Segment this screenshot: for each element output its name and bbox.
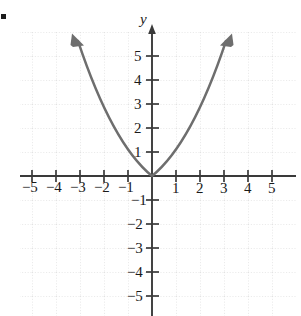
x-tick-label-3: 3	[220, 181, 227, 196]
x-tick-label-1: 1	[172, 181, 179, 196]
y-tick-label--4: −4	[127, 265, 142, 280]
x-tick-label--5: −5	[22, 180, 37, 195]
x-tick-label--2: −2	[94, 180, 109, 195]
y-tick-label-4: 4	[134, 73, 141, 88]
x-tick-label-5: 5	[268, 181, 275, 196]
x-tick-label--4: −4	[46, 180, 61, 195]
grid-lines	[20, 32, 296, 316]
y-tick-label-1: 1	[134, 145, 141, 160]
y-tick-label--2: −2	[127, 217, 142, 232]
y-tick-label--1: −1	[131, 193, 146, 208]
x-tick-label-4: 4	[244, 181, 251, 196]
x-tick-label--3: −3	[70, 180, 85, 195]
y-tick-label--3: −3	[127, 241, 142, 256]
y-tick-label-5: 5	[134, 49, 141, 64]
y-tick-label-2: 2	[134, 121, 141, 136]
coordinate-plane	[0, 0, 301, 316]
y-axis-arrow-icon	[148, 24, 156, 34]
y-tick-label--5: −5	[127, 289, 142, 304]
x-tick-label-2: 2	[196, 181, 203, 196]
y-tick-label-3: 3	[134, 97, 141, 112]
y-axis-label: y	[140, 12, 147, 27]
graph-figure: y −5 −4 −3 −2 −1 1 2 3 4 5 5 4 3 2 1 −1 …	[0, 0, 301, 316]
